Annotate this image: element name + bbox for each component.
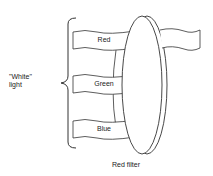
- filter-label: Red filter: [112, 161, 140, 169]
- filter-diagram-graphic: [0, 0, 213, 176]
- white-light-label: "White" light: [9, 73, 32, 89]
- diagram: "White" light Red Green Blue Red filter: [0, 0, 213, 176]
- band-label-blue: Blue: [73, 125, 135, 133]
- label-line: "White": [9, 73, 32, 81]
- label-line: light: [9, 81, 32, 89]
- band-label-green: Green: [73, 80, 135, 88]
- band-label-red: Red: [73, 36, 135, 44]
- transmitted-red-band: [160, 29, 200, 51]
